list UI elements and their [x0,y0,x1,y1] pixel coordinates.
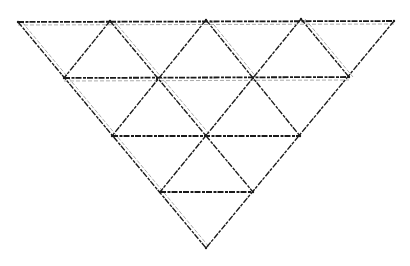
grid-vertex [205,19,207,21]
grid-vertex [348,76,350,78]
grid-vertex [159,191,161,193]
background [0,0,410,266]
grid-vertex [393,20,395,22]
grid-vertex [17,21,19,23]
grid-vertex [63,77,65,79]
grid-vertex [252,191,254,193]
grid-vertex [299,135,301,137]
grid-vertex [109,20,111,22]
grid-vertex [156,78,158,80]
grid-vertex [300,18,302,20]
grid-vertex [111,135,113,137]
grid-vertex [205,247,207,249]
grid-vertex [252,77,254,79]
grid-vertex [205,134,207,136]
horizontal-edge [64,77,349,78]
triangular-grid-diagram [0,0,410,266]
